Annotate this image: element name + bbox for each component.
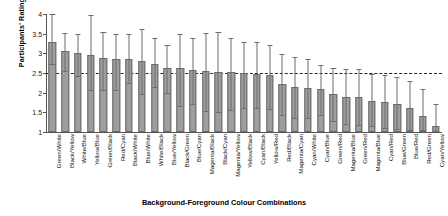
y-tick-label: 2	[38, 89, 42, 96]
x-category-label: Magenta/Blue	[374, 134, 381, 172]
error-bar-upper-cap	[382, 75, 387, 76]
y-tick	[43, 132, 47, 133]
bar-group	[46, 14, 59, 132]
bar-group	[174, 14, 187, 132]
error-bar	[90, 15, 91, 90]
x-axis-category-labels: Green/WhiteBlack/YellowWhite/BlueYellow/…	[46, 134, 442, 192]
x-category-label: Black/Green	[183, 134, 190, 168]
error-bar	[205, 33, 206, 111]
error-bar	[167, 45, 168, 93]
x-category-label: Green/Black	[106, 134, 113, 168]
error-bar-upper-cap	[50, 14, 55, 15]
error-bar-lower-cap	[229, 110, 234, 111]
error-bar-upper-cap	[356, 69, 361, 70]
error-bar	[154, 38, 155, 88]
x-category-label: Yellow/Blue	[93, 134, 100, 165]
error-bar-upper-cap	[280, 54, 285, 55]
error-bar	[218, 32, 219, 112]
bar-group	[391, 14, 404, 132]
bar-group	[404, 14, 417, 132]
error-bar-upper-cap	[75, 34, 80, 35]
bar-group	[327, 14, 340, 132]
bar-group	[199, 14, 212, 132]
error-bar	[358, 69, 359, 125]
x-category-label: Black/Yellow	[68, 134, 75, 168]
error-bar	[346, 69, 347, 124]
x-axis-title: Background-Foreground Colour Combination…	[0, 198, 448, 207]
error-bar-lower-cap	[63, 71, 68, 72]
error-bar	[129, 34, 130, 84]
error-bar	[77, 34, 78, 76]
error-bar	[282, 54, 283, 115]
error-bar-upper-cap	[88, 15, 93, 16]
error-bar-lower-cap	[139, 94, 144, 95]
error-bar-lower-cap	[165, 93, 170, 94]
error-bar-lower-cap	[88, 90, 93, 91]
bar-series	[46, 14, 442, 132]
error-bar-lower-cap	[382, 128, 387, 129]
y-axis-title: Participants' Ratings	[17, 0, 26, 83]
bar-group	[314, 14, 327, 132]
error-bar-upper-cap	[369, 74, 374, 75]
bar-group	[289, 14, 302, 132]
error-bar-upper-cap	[318, 65, 323, 66]
error-bar	[52, 14, 53, 64]
error-bar	[116, 34, 117, 90]
error-bar-lower-cap	[433, 131, 438, 132]
x-category-label: Yellow/Red	[272, 134, 279, 164]
bar-group	[238, 14, 251, 132]
error-bar-lower-cap	[101, 90, 106, 91]
x-category-label: Red/Black	[285, 134, 292, 162]
x-category-label: Blue/Cyan	[195, 134, 202, 162]
x-category-label: White/Blue	[80, 134, 87, 163]
error-bar	[192, 38, 193, 105]
error-bar-upper-cap	[229, 38, 234, 39]
bar-group	[97, 14, 110, 132]
x-category-label: Cyan/Yellow	[438, 134, 445, 167]
error-bar-lower-cap	[420, 130, 425, 131]
bar-group	[161, 14, 174, 132]
error-bar-lower-cap	[254, 108, 259, 109]
error-bar-upper-cap	[407, 81, 412, 82]
error-bar-upper-cap	[203, 33, 208, 34]
x-category-label: Red/Cyan	[119, 134, 126, 161]
error-bar-lower-cap	[331, 121, 336, 122]
x-category-label: Blue/Yellow	[170, 134, 177, 165]
x-category-label: Green/Red	[336, 134, 343, 164]
error-bar-lower-cap	[126, 83, 131, 84]
error-bar	[103, 32, 104, 89]
error-bar-upper-cap	[114, 34, 119, 35]
error-bar	[231, 38, 232, 110]
x-category-label: Cyan/Blue	[323, 134, 330, 162]
bar-group	[250, 14, 263, 132]
error-bar-upper-cap	[344, 69, 349, 70]
error-bar-lower-cap	[75, 76, 80, 77]
error-bar	[422, 89, 423, 131]
bar-group	[429, 14, 442, 132]
bar-group	[148, 14, 161, 132]
y-tick-label: 1.5	[32, 109, 42, 116]
error-bar-lower-cap	[152, 87, 157, 88]
bar-group	[72, 14, 85, 132]
error-bar-upper-cap	[139, 29, 144, 30]
bar-group	[84, 14, 97, 132]
error-bar-upper-cap	[267, 45, 272, 46]
y-tick-label: 4	[38, 11, 42, 18]
error-bar-lower-cap	[50, 64, 55, 65]
y-tick-label: 3	[38, 50, 42, 57]
error-bar	[65, 33, 66, 72]
error-bar	[256, 42, 257, 108]
error-bar-upper-cap	[152, 38, 157, 39]
y-tick-label: 2.5	[32, 70, 42, 77]
error-bar	[435, 104, 436, 131]
error-bar-upper-cap	[190, 38, 195, 39]
x-category-label: Blue/Green	[400, 134, 407, 165]
error-bar-upper-cap	[63, 33, 68, 34]
x-category-label: Red/Green	[425, 134, 432, 164]
x-category-label: Black/White	[131, 134, 138, 166]
error-bar	[141, 29, 142, 94]
error-bar	[410, 81, 411, 130]
error-bar-upper-cap	[165, 45, 170, 46]
x-category-label: White/Black	[157, 134, 164, 166]
error-bar-upper-cap	[241, 42, 246, 43]
